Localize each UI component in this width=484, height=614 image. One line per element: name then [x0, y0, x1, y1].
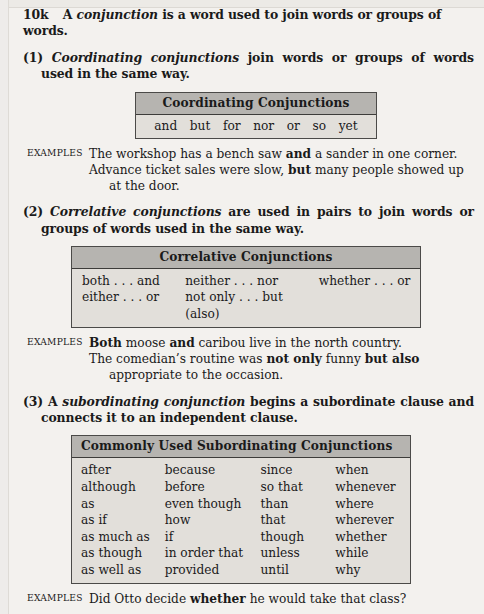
examples-block-2: EXAMPLES Both moose and caribou live in …	[27, 335, 474, 384]
coordinating-word: for	[223, 119, 241, 133]
examples-lines: The workshop has a bench saw and a sande…	[89, 146, 464, 195]
subordinating-cell: as	[81, 496, 165, 513]
rule-2-number: (2)	[23, 204, 43, 219]
example-line: Advance ticket sales were slow, but many…	[89, 162, 464, 178]
subordinating-cell: so that	[260, 479, 335, 496]
rule-3-lead: A	[48, 394, 62, 409]
example-line: The comedian’s routine was not only funn…	[89, 351, 419, 367]
rule-1-line: (1) Coordinating conjunctions join words…	[23, 50, 474, 83]
subordinating-cell: until	[260, 562, 335, 579]
subordinating-cell: where	[335, 496, 410, 513]
subordinating-cell: after	[81, 462, 165, 479]
table-subordinating-title: Commonly Used Subordinating Conjunctions	[72, 436, 410, 458]
example-text: caribou live in the north country.	[195, 336, 402, 350]
subordinating-cell: whether	[335, 529, 410, 546]
example-line-continuation: appropriate to the occasion.	[89, 367, 419, 383]
example-text: at the door.	[109, 179, 180, 193]
rule-1-block: (1) Coordinating conjunctions join words…	[23, 50, 474, 83]
coordinating-word: but	[190, 119, 211, 133]
subordinating-cell: whenever	[335, 479, 410, 496]
rule-3-term: subordinating conjunction	[62, 394, 245, 409]
coordinating-word: so	[313, 119, 327, 133]
example-text: moose	[122, 336, 169, 350]
correlative-cell: whether . . . or	[319, 273, 420, 289]
scan-left-edge	[0, 0, 9, 614]
examples-lines: Did Otto decide whether he would take th…	[89, 591, 406, 607]
rule-3-block: (3) A subordinating conjunction begins a…	[23, 394, 474, 427]
example-text: he would take that class?	[246, 592, 406, 606]
correlative-cell: both . . . and	[82, 273, 185, 289]
table-coordinating-title: Coordinating Conjunctions	[136, 93, 376, 115]
subordinating-cell: since	[260, 462, 335, 479]
subordinating-cell: as if	[81, 512, 165, 529]
example-line: The workshop has a bench saw and a sande…	[89, 146, 464, 162]
examples-label: EXAMPLES	[27, 146, 89, 158]
example-text: Did Otto decide	[89, 592, 190, 606]
correlative-cell: not only . . . but (also)	[185, 289, 319, 322]
subordinating-cell: why	[335, 562, 410, 579]
example-text: a sander in one corner.	[311, 147, 457, 161]
coordinating-word: and	[154, 119, 177, 133]
examples-lines: Both moose and caribou live in the north…	[89, 335, 419, 384]
correlative-cell: either . . . or	[82, 289, 185, 322]
table-correlative-title: Correlative Conjunctions	[72, 247, 420, 269]
example-keyword: and	[169, 336, 194, 350]
page-content: 10k A conjunction is a word used to join…	[9, 7, 484, 614]
section-number: 10k	[23, 7, 49, 22]
coordinating-word: nor	[253, 119, 274, 133]
table-coordinating-words-row: and but for nor or so yet	[136, 115, 376, 138]
rule-2-block: (2) Correlative conjunctions are used in…	[23, 204, 474, 237]
subordinating-cell: when	[335, 462, 410, 479]
example-text: funny	[322, 352, 365, 366]
example-keyword: whether	[190, 592, 246, 606]
coordinating-word: yet	[339, 119, 358, 133]
correlative-cell: neither . . . nor	[185, 273, 319, 289]
subordinating-cell: although	[81, 479, 165, 496]
section-rule-line: 10k A conjunction is a word used to join…	[23, 7, 474, 40]
document-page: 10k A conjunction is a word used to join…	[0, 0, 484, 614]
subordinating-cell: unless	[260, 545, 335, 562]
example-text: Advance ticket sales were slow,	[89, 163, 288, 177]
table-correlative-conjunctions: Correlative Conjunctions both . . . and …	[71, 246, 421, 328]
example-text: The comedian’s routine was	[89, 352, 266, 366]
examples-label: EXAMPLES	[27, 591, 89, 603]
example-text: appropriate to the occasion.	[109, 368, 283, 382]
subordinating-cell: in order that	[165, 545, 261, 562]
section-rule-term: conjunction	[76, 7, 157, 22]
section-rule-10k: 10k A conjunction is a word used to join…	[23, 7, 474, 40]
subordinating-cell: how	[165, 512, 261, 529]
example-text: The workshop has a bench saw	[89, 147, 286, 161]
subordinating-cell: as much as	[81, 529, 165, 546]
examples-label: EXAMPLES	[27, 335, 89, 347]
subordinating-cell: before	[165, 479, 261, 496]
example-line: Both moose and caribou live in the north…	[89, 335, 419, 351]
table-correlative-grid: both . . . and neither . . . nor whether…	[72, 269, 420, 327]
examples-block-1: EXAMPLES The workshop has a bench saw an…	[27, 146, 474, 195]
examples-block-3: EXAMPLES Did Otto decide whether he woul…	[27, 591, 474, 607]
rule-2-term: Correlative conjunctions	[50, 204, 221, 219]
correlative-cell	[319, 289, 420, 322]
example-text: many people showed up	[311, 163, 464, 177]
table-coordinating-conjunctions: Coordinating Conjunctions and but for no…	[135, 92, 377, 139]
coordinating-word: or	[287, 119, 300, 133]
example-line-continuation: at the door.	[89, 178, 464, 194]
example-line: Did Otto decide whether he would take th…	[89, 591, 406, 607]
example-keyword: and	[286, 147, 311, 161]
rule-2-line: (2) Correlative conjunctions are used in…	[23, 204, 474, 237]
subordinating-cell: wherever	[335, 512, 410, 529]
subordinating-cell: as though	[81, 545, 165, 562]
subordinating-cell: than	[260, 496, 335, 513]
subordinating-cell: if	[165, 529, 261, 546]
rule-3-line: (3) A subordinating conjunction begins a…	[23, 394, 474, 427]
example-keyword: but also	[365, 352, 420, 366]
table-subordinating-grid: after because since when although before…	[72, 458, 410, 582]
example-keyword: Both	[89, 336, 122, 350]
rule-1-term: Coordinating conjunctions	[52, 50, 239, 65]
example-keyword: not only	[266, 352, 322, 366]
subordinating-cell: while	[335, 545, 410, 562]
subordinating-cell: though	[260, 529, 335, 546]
rule-1-number: (1)	[23, 50, 43, 65]
subordinating-cell: as well as	[81, 562, 165, 579]
subordinating-cell: even though	[165, 496, 261, 513]
rule-3-number: (3)	[23, 394, 43, 409]
